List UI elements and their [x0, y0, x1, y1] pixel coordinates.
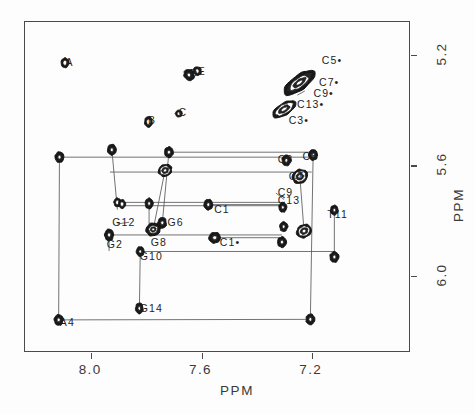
contour-peak: [209, 232, 221, 243]
peak-label: G12: [112, 217, 135, 228]
contour-peaks-layer: [25, 22, 409, 351]
peak-label: B: [148, 115, 156, 126]
x-tick-label: 8.0: [79, 362, 102, 377]
y-tick-label: 5.6: [434, 153, 449, 176]
y-tick-mark: [411, 55, 417, 56]
y-tick-mark: [411, 165, 417, 166]
contour-peak: [204, 199, 213, 210]
x-axis-title: PPM: [220, 383, 254, 398]
peak-label: G10: [140, 251, 163, 262]
contour-peak: [107, 144, 116, 155]
peak-label: G8: [151, 237, 167, 248]
y-tick-label: 6.0: [434, 263, 449, 286]
contour-peak: [145, 198, 153, 209]
contour-peak: [296, 224, 311, 238]
peak-label: C1•: [220, 237, 240, 248]
peak-label: C13•: [297, 99, 324, 110]
contour-peak: [330, 251, 339, 262]
peak-label: C7•: [319, 77, 339, 88]
peak-label: T11: [327, 209, 348, 220]
contour-peak: [158, 164, 172, 176]
peak-label: C13: [278, 195, 301, 206]
x-tick-label: 7.2: [299, 362, 322, 377]
contour-peak: [284, 70, 315, 95]
peak-label: C3•: [289, 115, 309, 126]
peak-label: C: [178, 107, 187, 118]
peak-label: A: [65, 57, 73, 68]
contour-peak: [165, 147, 174, 158]
peak-label: C5: [303, 151, 319, 162]
peak-label: G14: [140, 303, 163, 314]
peak-label: C5•: [322, 55, 342, 66]
contour-peak: [280, 221, 289, 231]
contour-peak: [158, 218, 167, 229]
plot-area: [25, 22, 409, 351]
y-axis-title: PPM: [451, 188, 466, 222]
y-tick-mark: [411, 276, 417, 277]
contour-peak: [306, 314, 315, 325]
x-tick-mark: [312, 353, 313, 359]
peak-label: C1: [214, 204, 230, 215]
contour-peak: [119, 200, 126, 209]
x-tick-label: 7.6: [189, 362, 212, 377]
peak-label: C3: [278, 154, 294, 165]
peak-label: E: [198, 66, 206, 77]
x-tick-mark: [202, 353, 203, 359]
peak-label: A4: [60, 317, 75, 328]
peak-label: C7: [289, 171, 305, 182]
peak-label: C9•: [314, 88, 334, 99]
plot-frame: [24, 21, 410, 352]
peak-label: G2: [107, 239, 123, 250]
contour-peak: [55, 152, 64, 163]
nmr-spectrum-figure: ADEBCC5•C7•C9•C13•C3•C5C3C7C9C13C1T11G6G…: [0, 0, 475, 414]
contour-peak: [278, 236, 287, 247]
peak-label: G6: [167, 217, 183, 228]
x-tick-mark: [91, 353, 92, 359]
y-tick-label: 5.2: [434, 43, 449, 66]
